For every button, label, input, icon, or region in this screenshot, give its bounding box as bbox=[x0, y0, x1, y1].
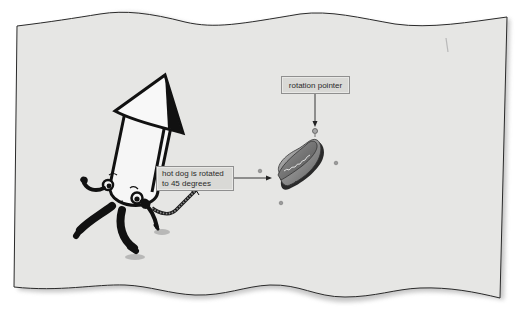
figure-illustration bbox=[0, 0, 515, 311]
sizing-handle-left-icon[interactable] bbox=[258, 169, 262, 173]
rotation-pointer-callout: rotation pointer bbox=[281, 76, 350, 94]
callout-line-2: to 45 degrees bbox=[162, 179, 228, 189]
figure: rotation pointer hot dog is rotated to 4… bbox=[0, 0, 515, 311]
sizing-handle-right-icon[interactable] bbox=[334, 161, 338, 165]
callout-label: rotation pointer bbox=[289, 81, 342, 90]
hot-dog-rotated-callout: hot dog is rotated to 45 degrees bbox=[156, 166, 234, 191]
figure-caption-cropped bbox=[236, 306, 282, 311]
callout-line-1: hot dog is rotated bbox=[162, 169, 228, 179]
sizing-handle-bottom-icon[interactable] bbox=[279, 201, 283, 205]
rotation-handle-icon[interactable] bbox=[313, 129, 318, 134]
paper-sheet bbox=[14, 12, 507, 298]
